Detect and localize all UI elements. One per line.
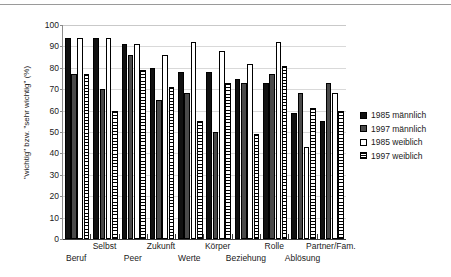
bar-group-rolle <box>261 25 289 239</box>
x-axis-label-k-rper: Körper <box>205 241 231 251</box>
bar-1997-m-nnlich <box>269 74 275 239</box>
bar-1997-weiblich <box>169 87 175 239</box>
bar-group-werte <box>176 25 204 239</box>
legend-swatch-hatched-white-square <box>360 152 367 159</box>
legend-item-1997-m-nnlich: 1997 männlich <box>360 124 426 134</box>
bar-1985-weiblich <box>219 51 225 239</box>
bar-1985-weiblich <box>106 38 112 239</box>
bar-1997-m-nnlich <box>71 74 77 239</box>
bar-1985-weiblich <box>162 55 168 239</box>
bar-1997-weiblich <box>282 66 288 239</box>
bar-group-peer <box>120 25 148 239</box>
y-tick-label-80: 80 <box>50 63 59 73</box>
bar-1985-m-nnlich <box>291 113 297 239</box>
bar-1997-weiblich <box>225 83 231 239</box>
bar-1997-weiblich <box>140 70 146 239</box>
x-axis-label-beruf: Beruf <box>66 253 86 263</box>
legend-swatch-solid-black-square <box>360 112 367 119</box>
bar-1997-m-nnlich <box>298 93 304 239</box>
bar-1985-m-nnlich <box>65 38 71 239</box>
bar-1985-m-nnlich <box>93 38 99 239</box>
y-tick-label-60: 60 <box>50 106 59 116</box>
legend-label: 1985 weiblich <box>371 137 423 147</box>
bar-1997-m-nnlich <box>184 93 190 239</box>
legend-item-1985-weiblich: 1985 weiblich <box>360 137 426 147</box>
x-axis-label-rolle: Rolle <box>265 241 284 251</box>
y-axis-title: "wichtig" bzw. "sehr wichtig" (%) <box>22 33 31 213</box>
bar-group-selbst <box>91 25 119 239</box>
bar-1997-m-nnlich <box>100 89 106 239</box>
y-tick-label-90: 90 <box>50 41 59 51</box>
chart-legend: 1985 männlich1997 männlich1985 weiblich1… <box>360 110 426 164</box>
bar-1985-m-nnlich <box>320 121 326 239</box>
bar-1997-weiblich <box>254 134 260 239</box>
x-axis-label-zukunft: Zukunft <box>147 241 175 251</box>
bar-1997-weiblich <box>338 111 344 239</box>
bar-1985-m-nnlich <box>263 83 269 239</box>
legend-swatch-solid-gray-square <box>360 125 367 132</box>
y-tick-label-0: 0 <box>54 234 59 244</box>
bar-group-abl-sung <box>289 25 317 239</box>
legend-label: 1997 weiblich <box>371 151 423 161</box>
bar-group-k-rper <box>204 25 232 239</box>
plot-area: 0102030405060708090100 <box>62 25 346 240</box>
x-axis-label-selbst: Selbst <box>93 241 117 251</box>
y-tick-mark-0 <box>60 239 63 240</box>
legend-label: 1985 männlich <box>371 110 426 120</box>
bar-group-beruf <box>63 25 91 239</box>
y-tick-label-70: 70 <box>50 84 59 94</box>
bar-1985-weiblich <box>276 42 282 239</box>
bar-1985-m-nnlich <box>206 72 212 239</box>
bar-1997-weiblich <box>197 121 203 239</box>
bar-1985-weiblich <box>191 42 197 239</box>
bar-1985-weiblich <box>304 147 310 239</box>
bar-group-partner-fam <box>318 25 346 239</box>
bar-group-beziehung <box>233 25 261 239</box>
bar-1985-m-nnlich <box>150 68 156 239</box>
y-tick-label-10: 10 <box>50 213 59 223</box>
x-axis-labels: BerufSelbstPeerZukunftWerteKörperBeziehu… <box>62 241 345 275</box>
y-tick-label-100: 100 <box>45 20 59 30</box>
y-tick-label-30: 30 <box>50 170 59 180</box>
y-tick-label-50: 50 <box>50 127 59 137</box>
legend-item-1997-weiblich: 1997 weiblich <box>360 151 426 161</box>
bar-1985-weiblich <box>247 64 253 239</box>
bar-1985-m-nnlich <box>122 44 128 239</box>
bar-chart: "wichtig" bzw. "sehr wichtig" (%) 010203… <box>0 0 451 277</box>
bar-1985-weiblich <box>77 38 83 239</box>
x-axis-label-beziehung: Beziehung <box>226 253 266 263</box>
bar-1997-m-nnlich <box>326 83 332 239</box>
x-axis-label-partner-fam: Partner/Fam. <box>306 241 356 251</box>
bar-1985-m-nnlich <box>235 79 241 240</box>
y-tick-label-40: 40 <box>50 148 59 158</box>
bar-1997-m-nnlich <box>241 83 247 239</box>
legend-swatch-open-white-square <box>360 139 367 146</box>
bar-groups <box>63 25 346 239</box>
legend-label: 1997 männlich <box>371 124 426 134</box>
y-tick-label-20: 20 <box>50 191 59 201</box>
x-axis-label-abl-sung: Ablösung <box>285 253 320 263</box>
bar-1985-weiblich <box>134 44 140 239</box>
legend-item-1985-m-nnlich: 1985 männlich <box>360 110 426 120</box>
bar-1997-m-nnlich <box>213 132 219 239</box>
x-axis-label-werte: Werte <box>178 253 201 263</box>
bar-1997-weiblich <box>310 108 316 239</box>
bar-1997-weiblich <box>112 111 118 239</box>
bar-1997-m-nnlich <box>128 55 134 239</box>
bar-1997-weiblich <box>84 74 90 239</box>
x-axis-label-peer: Peer <box>124 253 142 263</box>
bar-group-zukunft <box>148 25 176 239</box>
bar-1985-m-nnlich <box>178 72 184 239</box>
bar-1997-m-nnlich <box>156 100 162 239</box>
bar-1985-weiblich <box>332 93 338 239</box>
